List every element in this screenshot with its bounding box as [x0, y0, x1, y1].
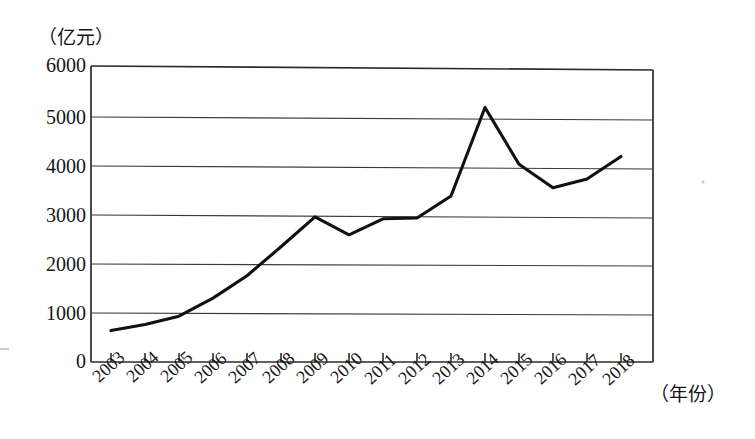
x-tick-label-2010: 2010	[327, 349, 366, 386]
x-tick-label-2012: 2012	[395, 350, 434, 387]
x-tick-label-2007: 2007	[225, 349, 264, 386]
x-tick-label-2011: 2011	[361, 350, 399, 387]
x-tick-label-2005: 2005	[157, 348, 196, 385]
line-chart-figure: （亿元） （年份） 6000 5000 4000 3000 2000 1000 …	[0, 0, 755, 439]
x-tick-label-2004: 2004	[123, 348, 162, 385]
x-tick-label-2006: 2006	[191, 349, 230, 386]
x-tick-label-2017: 2017	[565, 351, 604, 388]
x-tick-label-2016: 2016	[531, 350, 570, 387]
x-tick-label-2003: 2003	[89, 348, 128, 385]
x-tick-label-2014: 2014	[463, 350, 502, 387]
x-tick-label-2013: 2013	[429, 350, 468, 387]
x-axis-tick-labels: 2003200420052006200720082009201020112012…	[0, 0, 755, 439]
x-tick-label-2018: 2018	[599, 351, 638, 388]
x-tick-label-2009: 2009	[293, 349, 332, 386]
x-tick-label-2008: 2008	[259, 349, 298, 386]
x-tick-label-2015: 2015	[497, 350, 536, 387]
